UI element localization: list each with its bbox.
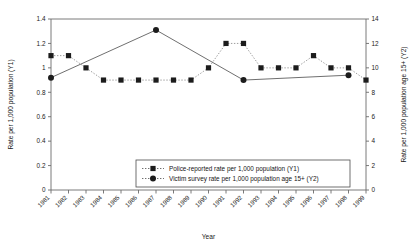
data-point-marker xyxy=(136,77,141,82)
data-point-marker xyxy=(293,65,298,70)
data-point-marker xyxy=(363,77,368,82)
data-point-marker xyxy=(118,77,123,82)
x-tick-label: 1990 xyxy=(194,193,209,208)
x-tick-label: 1993 xyxy=(246,193,261,208)
data-point-marker xyxy=(346,65,351,70)
y2-tick-label: 8 xyxy=(372,89,376,96)
x-tick-label: 1981 xyxy=(36,193,51,208)
legend-marker-square xyxy=(150,166,155,171)
data-point-marker xyxy=(276,65,281,70)
x-tick-label: 1998 xyxy=(334,193,349,208)
data-point-marker xyxy=(171,77,176,82)
x-tick-label: 1991 xyxy=(211,193,226,208)
y2-tick-label: 2 xyxy=(372,162,376,169)
data-point-marker xyxy=(48,75,54,81)
legend-marker-circle xyxy=(150,176,156,182)
x-tick-label: 1992 xyxy=(229,193,244,208)
data-point-marker xyxy=(241,77,247,83)
y2-tick-label: 4 xyxy=(372,137,376,144)
line-chart: 00.20.40.60.811.21.402468101214198119821… xyxy=(0,0,417,250)
y1-tick-label: 0.4 xyxy=(37,137,46,144)
y1-tick-label: 1 xyxy=(42,64,46,71)
series-line-1 xyxy=(51,43,366,80)
data-point-marker xyxy=(328,65,333,70)
y1-axis-title: Rate per 1,000 population (Y1) xyxy=(7,59,15,149)
x-tick-label: 1983 xyxy=(71,193,86,208)
data-point-marker xyxy=(311,53,316,58)
x-tick-label: 1997 xyxy=(316,193,331,208)
data-point-marker xyxy=(188,77,193,82)
y1-tick-label: 1.2 xyxy=(37,40,46,47)
y2-axis-title: Rate per 1,000 population age 15+ (Y2) xyxy=(400,46,408,162)
series-2 xyxy=(48,27,352,83)
data-point-marker xyxy=(153,27,159,33)
series-line-2 xyxy=(51,30,349,80)
x-tick-label: 1999 xyxy=(351,193,366,208)
x-tick-label: 1985 xyxy=(106,193,121,208)
x-tick-label: 1982 xyxy=(54,193,69,208)
chart-legend: Police-reported rate per 1,000 populatio… xyxy=(136,160,350,187)
x-tick-label: 1995 xyxy=(281,193,296,208)
data-point-marker xyxy=(66,53,71,58)
y2-tick-label: 12 xyxy=(372,40,380,47)
x-tick-label: 1987 xyxy=(141,193,156,208)
data-point-marker xyxy=(346,72,352,78)
data-point-marker xyxy=(83,65,88,70)
y1-tick-label: 0 xyxy=(42,186,46,193)
x-tick-label: 1996 xyxy=(299,193,314,208)
y2-tick-label: 10 xyxy=(372,64,380,71)
data-point-marker xyxy=(101,77,106,82)
chart-container: 00.20.40.60.811.21.402468101214198119821… xyxy=(0,0,417,250)
y1-tick-label: 0.8 xyxy=(37,89,46,96)
legend-item-label: Victim survey rate per 1,000 population … xyxy=(169,175,319,183)
legend-item-label: Police-reported rate per 1,000 populatio… xyxy=(169,165,299,173)
x-tick-label: 1994 xyxy=(264,193,279,208)
y1-tick-label: 0.6 xyxy=(37,113,46,120)
data-point-marker xyxy=(223,41,228,46)
x-tick-label: 1984 xyxy=(89,193,104,208)
data-point-marker xyxy=(206,65,211,70)
data-point-marker xyxy=(258,65,263,70)
y1-tick-label: 1.4 xyxy=(37,15,46,22)
y1-tick-label: 0.2 xyxy=(37,162,46,169)
x-tick-label: 1989 xyxy=(176,193,191,208)
y2-tick-label: 6 xyxy=(372,113,376,120)
y2-tick-label: 0 xyxy=(372,186,376,193)
y2-tick-label: 14 xyxy=(372,15,380,22)
x-tick-label: 1988 xyxy=(159,193,174,208)
data-point-marker xyxy=(48,53,53,58)
data-point-marker xyxy=(153,77,158,82)
x-axis-title: Year xyxy=(202,233,216,240)
data-point-marker xyxy=(241,41,246,46)
x-tick-label: 1986 xyxy=(124,193,139,208)
